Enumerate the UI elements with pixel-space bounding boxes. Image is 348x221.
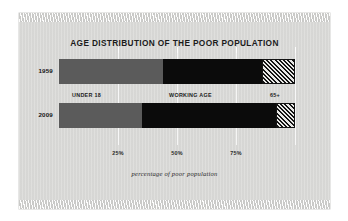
x-tick-label-75: 75% [230, 150, 241, 156]
plot-area: 1959 UNDER 18 WORKING AGE 65+ 2009 25% 5… [19, 13, 330, 209]
bar-segment-2009-under18 [59, 103, 142, 128]
category-label-2009: 2009 [19, 111, 53, 118]
bar-1959 [59, 59, 295, 84]
tickmark-50 [177, 47, 178, 53]
chart-paper: AGE DISTRIBUTION OF THE POOR POPULATION … [19, 13, 330, 209]
x-tick-label-50: 50% [171, 150, 182, 156]
segment-label-65plus: 65+ [270, 92, 280, 98]
x-axis-caption: percentage of poor population [19, 170, 330, 177]
bar-segment-2009-65plus [276, 103, 295, 128]
bar-segment-1959-under18 [59, 59, 163, 84]
segment-label-working-age: WORKING AGE [169, 92, 212, 98]
tickmark-75 [236, 47, 237, 53]
tickmark-25 [118, 47, 119, 53]
bar-segment-1959-65plus [262, 59, 295, 84]
bar-segment-2009-working-age [142, 103, 277, 128]
segment-label-under18: UNDER 18 [72, 92, 101, 98]
category-label-1959: 1959 [19, 67, 53, 74]
bar-segment-1959-working-age [163, 59, 262, 84]
x-tick-label-25: 25% [112, 150, 123, 156]
tickmark-100 [295, 47, 296, 53]
chart-screenshot: AGE DISTRIBUTION OF THE POOR POPULATION … [0, 0, 348, 221]
bar-2009 [59, 103, 295, 128]
gridline-100 [295, 53, 296, 145]
